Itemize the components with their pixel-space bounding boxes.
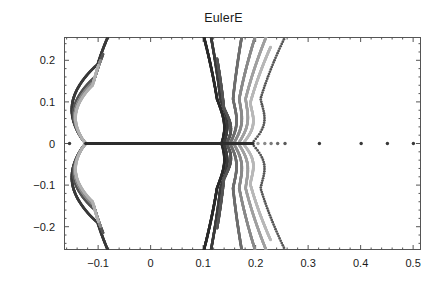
- data-point: [261, 128, 264, 131]
- data-point: [386, 142, 389, 145]
- data-point: [263, 119, 266, 122]
- data-point: [102, 232, 105, 235]
- data-point: [279, 45, 282, 48]
- x-axis-tick-label: 0.3: [300, 257, 315, 269]
- data-point: [276, 142, 279, 145]
- data-point: [262, 158, 265, 161]
- data-point: [260, 184, 263, 187]
- data-point: [97, 64, 100, 67]
- x-axis-tick-label: 0: [148, 257, 154, 269]
- chart-figure: EulerE 0.20.10−0.1−0.2 −0.100.10.20.30.4…: [0, 0, 447, 287]
- page-title: EulerE: [0, 11, 447, 25]
- data-point: [278, 237, 281, 240]
- data-point: [216, 227, 219, 230]
- data-point: [256, 135, 259, 138]
- data-point: [259, 186, 262, 189]
- data-point: [274, 228, 277, 231]
- data-point: [263, 112, 266, 115]
- data-point: [283, 142, 286, 145]
- data-point: [262, 124, 265, 127]
- data-point: [261, 193, 264, 196]
- data-point: [254, 147, 257, 150]
- y-axis-tick-label: 0.2: [0, 54, 55, 66]
- data-point: [252, 142, 255, 145]
- data-point: [279, 239, 282, 242]
- data-point: [276, 232, 279, 235]
- data-point: [274, 56, 277, 59]
- data-point: [261, 179, 264, 182]
- data-point: [265, 80, 268, 83]
- data-point: [260, 100, 263, 103]
- data-point: [263, 114, 266, 117]
- data-point: [262, 175, 265, 178]
- data-point: [262, 126, 265, 129]
- data-point: [262, 195, 265, 198]
- data-point: [272, 61, 275, 64]
- data-point: [258, 133, 261, 136]
- data-point: [259, 131, 262, 134]
- data-point: [269, 214, 272, 217]
- data-point: [318, 142, 321, 145]
- data-point: [263, 117, 266, 120]
- data-point: [256, 149, 259, 152]
- data-point: [266, 77, 269, 80]
- data-point: [262, 110, 265, 113]
- data-point: [258, 151, 261, 154]
- data-point: [97, 220, 100, 223]
- x-axis-tick-label: 0.5: [405, 257, 420, 269]
- data-point: [260, 188, 263, 191]
- data-point: [263, 168, 266, 171]
- data-point: [262, 161, 265, 164]
- data-point: [281, 244, 284, 247]
- plot-area: [64, 37, 421, 250]
- data-point: [256, 142, 259, 145]
- data-point: [268, 212, 271, 215]
- x-axis-tick-label: −0.1: [87, 257, 109, 269]
- data-point: [264, 82, 267, 85]
- data-point: [260, 191, 263, 194]
- data-point: [102, 53, 105, 56]
- data-point: [263, 163, 266, 166]
- data-point: [263, 198, 266, 201]
- data-point: [263, 142, 266, 145]
- y-axis-tick-label: −0.2: [0, 221, 55, 233]
- data-points: [68, 37, 415, 250]
- data-point: [278, 47, 281, 50]
- data-point: [263, 87, 266, 90]
- data-point: [273, 59, 276, 62]
- data-point: [273, 226, 276, 229]
- data-point: [262, 177, 265, 180]
- y-axis-tick-label: 0: [0, 138, 55, 150]
- data-point: [261, 103, 264, 106]
- data-point: [283, 38, 286, 41]
- data-point: [263, 84, 266, 87]
- data-point: [359, 142, 362, 145]
- data-point: [99, 59, 102, 62]
- data-point: [264, 202, 267, 205]
- data-point: [275, 230, 278, 233]
- scatter-plot-svg: [64, 37, 421, 250]
- data-point: [277, 50, 280, 53]
- data-point: [265, 205, 268, 208]
- data-point: [260, 94, 263, 97]
- data-point: [271, 221, 274, 224]
- data-point: [269, 70, 272, 73]
- data-point: [261, 156, 264, 159]
- data-point: [281, 40, 284, 43]
- y-axis-tick-label: −0.1: [0, 179, 55, 191]
- data-point: [261, 182, 264, 185]
- data-point: [269, 68, 272, 71]
- data-point: [272, 223, 275, 226]
- data-point: [268, 73, 271, 76]
- data-point: [84, 142, 87, 145]
- data-point: [267, 209, 270, 212]
- data-point: [269, 142, 272, 145]
- data-point: [263, 170, 266, 173]
- data-point: [277, 235, 280, 238]
- data-point: [99, 225, 102, 228]
- data-point: [263, 200, 266, 203]
- data-point: [259, 98, 262, 101]
- data-point: [280, 242, 283, 245]
- data-point: [275, 54, 278, 57]
- data-point: [216, 57, 219, 60]
